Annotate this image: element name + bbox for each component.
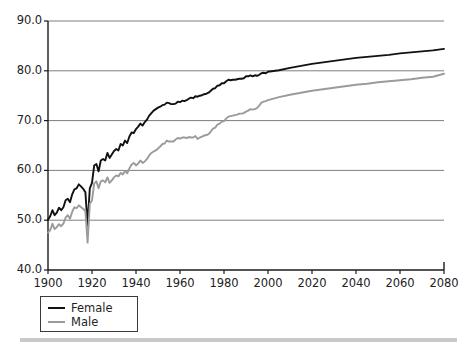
axis-lines xyxy=(48,21,444,270)
x-tick-label: 1920 xyxy=(70,276,114,290)
x-tick-label: 1900 xyxy=(26,276,70,290)
legend-swatch-female-icon xyxy=(48,307,65,309)
x-tick-label: 2080 xyxy=(422,276,466,290)
series-line-female xyxy=(48,49,444,225)
gridlines xyxy=(48,21,444,220)
legend-item-female: Female xyxy=(48,301,137,314)
x-tick-label: 1940 xyxy=(114,276,158,290)
legend-swatch-male-icon xyxy=(48,321,65,323)
x-tick-label: 2040 xyxy=(334,276,378,290)
chart-plot-area xyxy=(0,0,470,347)
legend-item-male: Male xyxy=(48,315,137,328)
chart-legend: Female Male xyxy=(40,296,138,332)
legend-label-female: Female xyxy=(71,302,113,314)
y-tick-label: 60.0 xyxy=(2,162,42,176)
series-lines xyxy=(48,49,444,243)
y-tick-label: 90.0 xyxy=(2,13,42,27)
legend-label-male: Male xyxy=(71,316,98,328)
y-tick-label: 80.0 xyxy=(2,63,42,77)
y-tick-label: 50.0 xyxy=(2,212,42,226)
x-tick-label: 1960 xyxy=(158,276,202,290)
x-tick-label: 2060 xyxy=(378,276,422,290)
series-line-male xyxy=(48,74,444,243)
life-expectancy-chart: 40.050.060.070.080.090.0 190019201940196… xyxy=(0,0,470,347)
y-tick-label: 40.0 xyxy=(2,262,42,276)
x-tick-label: 2000 xyxy=(246,276,290,290)
footer-rule xyxy=(20,338,457,342)
x-tick-label: 2020 xyxy=(290,276,334,290)
x-tick-label: 1980 xyxy=(202,276,246,290)
y-tick-label: 70.0 xyxy=(2,113,42,127)
